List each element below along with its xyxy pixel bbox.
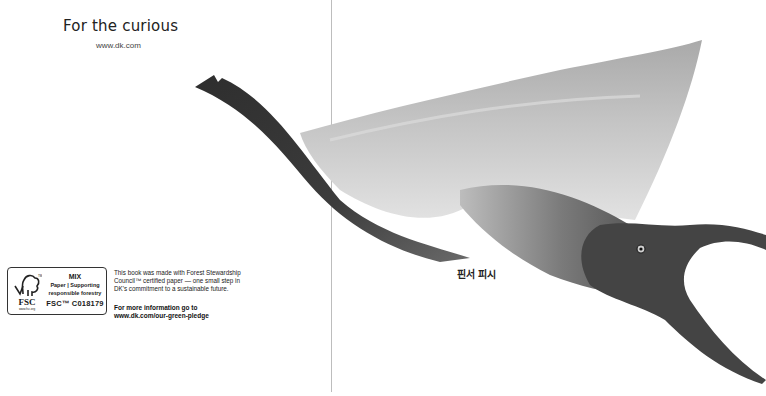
pterosaur-illustration [0,0,766,396]
head [581,223,766,384]
caption: 핀서 피시 [457,266,496,281]
